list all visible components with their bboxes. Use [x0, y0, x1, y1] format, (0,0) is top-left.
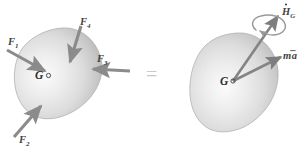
- left-body-blob: [14, 28, 102, 119]
- vector-label-m-abar: ma: [283, 50, 297, 61]
- left-body-group: [14, 28, 102, 119]
- force-arrow-F3: [93, 69, 130, 71]
- force-label-F2: F2: [18, 134, 30, 146]
- rotation-arc-icon: [253, 15, 286, 35]
- svg-text:HG: HG: [281, 6, 295, 20]
- right-center-of-mass-label: G: [220, 75, 229, 87]
- equals-sign: =: [146, 63, 157, 85]
- force-label-F1: F1: [7, 36, 19, 50]
- vector-label-Hdot-G: HG: [281, 3, 295, 19]
- svg-text:ma: ma: [283, 50, 297, 61]
- figure-canvas: F1 F4 F3 F2 G =: [0, 0, 308, 146]
- left-center-of-mass-label: G: [35, 69, 44, 81]
- free-body-diagram-figure: F1 F4 F3 F2 G =: [0, 0, 308, 146]
